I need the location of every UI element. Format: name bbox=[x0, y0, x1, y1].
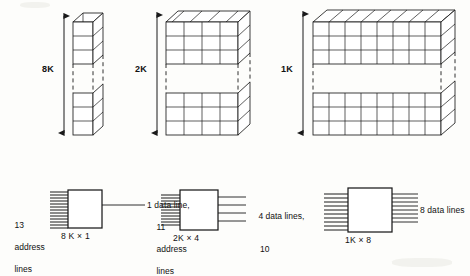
chip-8kx1-address-word2: lines bbox=[14, 264, 31, 274]
chip-2kx4-address-label: 11 address lines (211 = 2048) bbox=[147, 211, 202, 276]
dimension-label-2k: 2K bbox=[135, 64, 147, 74]
chip-8kx1-data-label: 1 data line, bbox=[147, 200, 190, 211]
block-8k-1 bbox=[64, 13, 103, 135]
chip-1kx8-address-pins bbox=[324, 194, 348, 230]
chip-2kx4-address-word2: lines bbox=[156, 266, 173, 276]
chip-2kx4-address-word1: address bbox=[156, 244, 186, 254]
chip-1kx8-data-label: 8 data lines bbox=[420, 205, 465, 216]
chip-2kx4-address-count: 11 bbox=[156, 222, 165, 232]
chip-packages-group: .body { stroke:#1a1a1a; stroke-width:1.2… bbox=[0, 150, 470, 276]
chip-1kx8-data-pins bbox=[392, 194, 418, 222]
chip-2kx4-data-label: 4 data lines, 10 address lines (210 = 10… bbox=[249, 200, 306, 276]
chip-1kx8-address-count: 10 bbox=[249, 244, 306, 255]
dimension-label-8k: 8K bbox=[42, 64, 54, 74]
chip-1kx8-name: 1K × 8 bbox=[345, 235, 371, 245]
chip-2kx4-data-count: 4 data lines, bbox=[258, 211, 304, 221]
block-2k-4 bbox=[157, 11, 250, 135]
chip-8kx1-address-count: 13 bbox=[14, 220, 23, 230]
block-1k-8 bbox=[303, 10, 455, 135]
chip-1kx8 bbox=[324, 188, 418, 232]
memory-blocks-group: .ln { stroke:#1a1a1a; stroke-width:0.85;… bbox=[0, 0, 470, 150]
chip-8kx1-address-word1: address bbox=[14, 242, 44, 252]
chip-2kx4-data-pins bbox=[218, 197, 246, 221]
dimension-label-1k: 1K bbox=[281, 64, 293, 74]
chip-8kx1 bbox=[50, 190, 145, 228]
chip-8kx1-name: 8 K × 1 bbox=[61, 231, 90, 241]
figure-canvas: .ln { stroke:#1a1a1a; stroke-width:0.85;… bbox=[0, 0, 470, 276]
chip-8kx1-address-label: 13 address lines (213 = 8192) bbox=[5, 209, 60, 276]
